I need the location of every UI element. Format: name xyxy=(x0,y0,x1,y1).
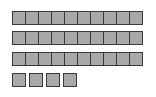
tens-rod-1 xyxy=(12,11,143,25)
rod-cell xyxy=(65,53,77,65)
rod-cell xyxy=(117,32,129,44)
rod-cell xyxy=(13,53,25,65)
rod-cell xyxy=(130,53,142,65)
rod-cell xyxy=(117,53,129,65)
rod-cell xyxy=(78,12,90,24)
unit-cubes xyxy=(12,73,77,87)
rod-cell xyxy=(78,32,90,44)
rod-cell xyxy=(13,12,25,24)
rod-cell xyxy=(104,32,116,44)
unit-cube xyxy=(29,73,43,87)
rod-cell xyxy=(130,32,142,44)
rod-cell xyxy=(91,53,103,65)
rod-cell xyxy=(26,12,38,24)
rod-cell xyxy=(26,53,38,65)
rod-cell xyxy=(39,32,51,44)
rod-cell xyxy=(65,32,77,44)
rod-cell xyxy=(52,12,64,24)
unit-cube xyxy=(46,73,60,87)
rod-cell xyxy=(91,32,103,44)
rod-cell xyxy=(91,12,103,24)
rod-cell xyxy=(39,53,51,65)
rod-cell xyxy=(78,53,90,65)
rod-cell xyxy=(130,12,142,24)
rod-cell xyxy=(117,12,129,24)
unit-cube xyxy=(12,73,26,87)
tens-rod-2 xyxy=(12,31,143,45)
rod-cell xyxy=(13,32,25,44)
rod-cell xyxy=(52,32,64,44)
rod-cell xyxy=(39,12,51,24)
rod-cell xyxy=(52,53,64,65)
rod-cell xyxy=(65,12,77,24)
rod-cell xyxy=(104,53,116,65)
unit-cube xyxy=(63,73,77,87)
rod-cell xyxy=(104,12,116,24)
tens-rod-3 xyxy=(12,52,143,66)
rod-cell xyxy=(26,32,38,44)
